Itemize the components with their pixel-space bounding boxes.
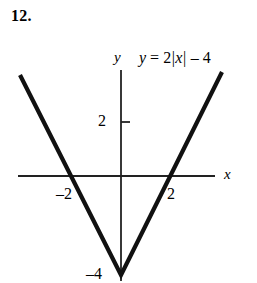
graph-canvas (0, 0, 257, 283)
y-tick-label-2: 2 (98, 113, 106, 129)
equation-coefficient: 2 (163, 49, 171, 66)
x-axis-label: x (224, 167, 231, 182)
y-tick-label-negative-4: –4 (86, 266, 102, 282)
equation-lhs: y (139, 49, 146, 66)
x-tick-label-negative-2: –2 (56, 186, 72, 202)
equation-minus: – (191, 49, 199, 66)
equation-equals: = (150, 49, 159, 66)
equation-constant: 4 (203, 49, 211, 66)
y-axis-label: y (114, 50, 121, 65)
x-tick-label-2: 2 (167, 186, 175, 202)
equation-abs-close: | (182, 49, 186, 66)
equation-label: y = 2|x| – 4 (139, 50, 211, 66)
